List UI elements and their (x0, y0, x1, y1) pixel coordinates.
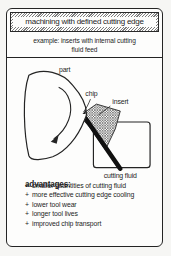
advantage-item: +longer tool lives (25, 209, 158, 218)
page-title: machining with defined cutting edge (13, 17, 156, 27)
example-caption-line1: example: inserts with internal cutting (7, 36, 162, 45)
insert-label: insert (112, 98, 128, 105)
advantage-item-text: improved chip transport (32, 220, 101, 227)
example-caption-line2: fluid feed (7, 45, 162, 54)
chip-label: chip (85, 90, 97, 98)
plus-bullet: + (25, 200, 32, 209)
part-shape (24, 71, 86, 159)
plus-bullet: + (25, 209, 32, 218)
part-label: part (59, 66, 71, 74)
advantage-item-text: more effective cutting edge cooling (32, 191, 134, 198)
advantage-item: +more effective cutting edge cooling (25, 190, 158, 199)
page: machining with defined cutting edge exam… (0, 0, 171, 256)
header-banner: machining with defined cutting edge (10, 12, 159, 32)
cutting-fluid-label: cutting fluid (104, 172, 137, 180)
advantage-item: +improved chip transport (25, 219, 158, 228)
cutting-diagram: part chip insert cutting fluid (7, 58, 161, 180)
plus-bullet: + (25, 190, 32, 199)
advantages-heading: advantages: (25, 180, 71, 189)
slide-card: machining with defined cutting edge exam… (6, 8, 163, 247)
example-caption: example: inserts with internal cutting f… (7, 32, 162, 57)
advantage-item-text: lower tool wear (32, 201, 77, 208)
advantage-item-text: longer tool lives (32, 210, 78, 217)
plus-bullet: + (25, 219, 32, 228)
advantage-item: +lower tool wear (25, 200, 158, 209)
